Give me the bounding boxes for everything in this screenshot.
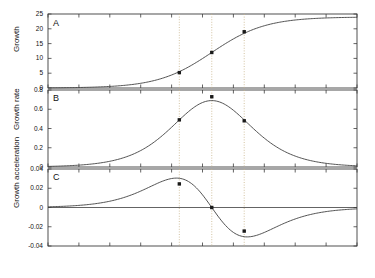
panel-a-frame <box>48 14 357 88</box>
panel-b-ytick-label: 0.6 <box>0 105 43 112</box>
panel-label-c: C <box>53 172 60 182</box>
panel-b-ytick-label: 0.4 <box>0 125 43 132</box>
panel-c-ytick-label: 0 <box>0 204 43 211</box>
panel-b-curve <box>48 101 357 167</box>
panel-c-marker-p3 <box>243 229 246 232</box>
panel-a-ylabel: Growth <box>12 26 21 52</box>
panel-a-ytick-label: 25 <box>0 10 43 17</box>
panel-a-marker-p3 <box>243 30 246 33</box>
panel-b-ylabel: Growth rate <box>12 88 21 130</box>
panel-a-marker-p2 <box>210 51 213 54</box>
panel-a-ytick-label: 20 <box>0 25 43 32</box>
panel-a-curve <box>48 17 357 88</box>
panel-b-marker-p1 <box>178 118 181 121</box>
figure-container: ABC0510152025Growth00.20.40.60.8Growth r… <box>0 0 375 278</box>
panel-b-ytick-label: 0.2 <box>0 144 43 151</box>
panel-b-marker-p3 <box>243 119 246 122</box>
panel-a-ytick-label: 15 <box>0 40 43 47</box>
panel-c-marker-p2 <box>210 206 213 209</box>
panel-c-ylabel: Growth acceleration <box>12 137 21 208</box>
plot-canvas <box>0 0 375 278</box>
panel-c-ytick-label: -0.02 <box>0 223 43 230</box>
panel-b-frame <box>48 90 357 167</box>
panel-a-ytick-label: 5 <box>0 69 43 76</box>
panel-label-a: A <box>53 18 59 28</box>
panel-c-ytick-label: 0.04 <box>0 165 43 172</box>
panel-c-ytick-label: -0.04 <box>0 242 43 249</box>
panel-a-ytick-label: 10 <box>0 54 43 61</box>
panel-a-marker-p1 <box>178 71 181 74</box>
panel-b-marker-p2 <box>210 95 213 98</box>
panel-label-b: B <box>53 93 59 103</box>
panel-c-ytick-label: 0.02 <box>0 184 43 191</box>
panel-b-ytick-label: 0.8 <box>0 86 43 93</box>
panel-c-marker-p1 <box>178 182 181 185</box>
